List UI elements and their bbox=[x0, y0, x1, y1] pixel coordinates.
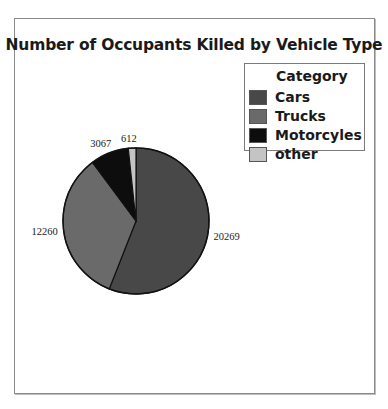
legend-item-cars: Cars bbox=[249, 88, 310, 106]
pie-slices bbox=[63, 148, 209, 294]
legend-swatch-trucks bbox=[249, 109, 267, 124]
pie-label-cars: 20269 bbox=[214, 231, 240, 242]
legend-item-motorcycles: Motorcyles bbox=[249, 126, 362, 144]
legend-label-motorcycles: Motorcyles bbox=[275, 127, 362, 143]
legend-label-trucks: Trucks bbox=[275, 108, 326, 124]
legend-swatch-motorcycles bbox=[249, 128, 267, 143]
legend: Category Cars Trucks Motorcyles other bbox=[244, 63, 365, 151]
legend-title: Category bbox=[276, 68, 348, 84]
legend-label-other: other bbox=[275, 146, 318, 162]
pie-chart: 20269122603067612 bbox=[0, 0, 388, 409]
legend-swatch-cars bbox=[249, 90, 267, 105]
legend-item-other: other bbox=[249, 145, 318, 163]
legend-item-trucks: Trucks bbox=[249, 107, 326, 125]
pie-label-other: 612 bbox=[121, 133, 137, 144]
legend-label-cars: Cars bbox=[275, 89, 310, 105]
legend-swatch-other bbox=[249, 147, 267, 162]
pie-label-motorcycles: 3067 bbox=[90, 138, 111, 149]
pie-label-trucks: 12260 bbox=[31, 226, 57, 237]
